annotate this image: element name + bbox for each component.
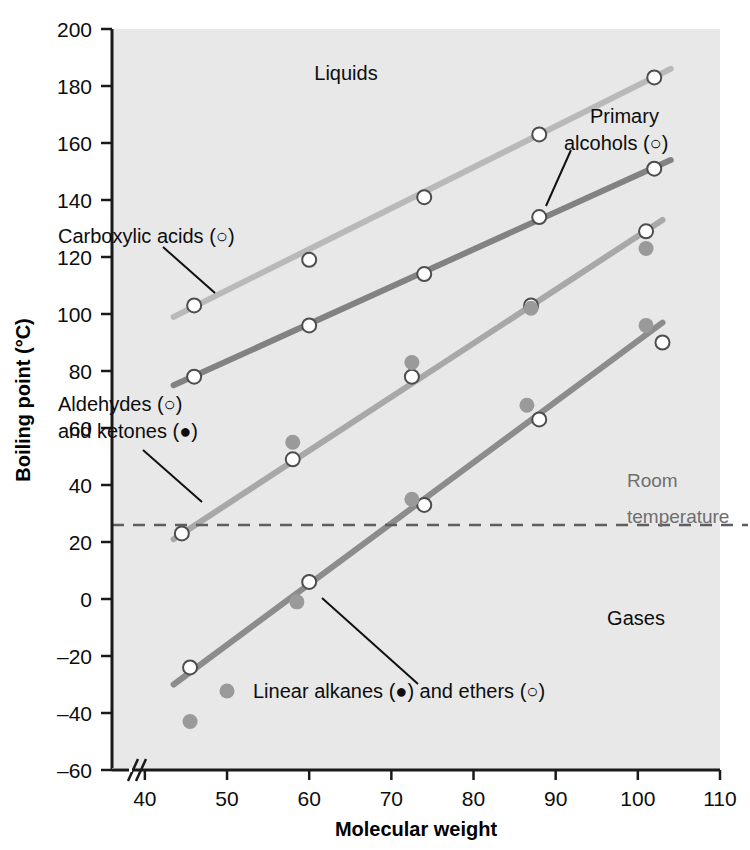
data-point-ketones	[524, 301, 539, 316]
y-axis-title: Boiling point (°C)	[12, 318, 34, 482]
data-point-aldehydes	[175, 526, 189, 540]
boiling-point-vs-molecular-weight-chart: 4050607080901001102001801601401201008060…	[0, 0, 750, 850]
annotation-ketones: and ketones (●)	[58, 420, 198, 442]
data-point-aldehydes	[639, 224, 653, 238]
y-tick-label--60: –60	[57, 759, 92, 782]
y-tick-label--20: –20	[57, 645, 92, 668]
x-tick-label-70: 70	[380, 787, 403, 810]
annotation-carboxylic-acids: Carboxylic acids (○)	[58, 225, 235, 247]
annotation-alkanes-ethers: Linear alkanes (●) and ethers (○)	[253, 680, 545, 702]
data-point-primary-alcohols	[647, 162, 661, 176]
data-point-linear-alkanes	[639, 318, 654, 333]
data-point-ketones	[285, 435, 300, 450]
data-point-linear-alkanes	[289, 594, 304, 609]
data-point-primary-alcohols	[187, 370, 201, 384]
data-point-primary-alcohols	[532, 210, 546, 224]
x-tick-label-100: 100	[620, 787, 655, 810]
annotation-aldehydes: Aldehydes (○)	[58, 393, 182, 415]
y-tick-label-100: 100	[57, 303, 92, 326]
y-tick-label-20: 20	[69, 531, 92, 554]
data-point-linear-alkanes	[183, 714, 198, 729]
data-point-ethers	[655, 336, 669, 350]
annotation-room-temperature-line2: temperature	[627, 506, 729, 527]
data-point-ketones	[639, 241, 654, 256]
data-point-primary-alcohols	[417, 267, 431, 281]
data-point-ketones	[404, 355, 419, 370]
data-point-ethers	[532, 412, 546, 426]
y-tick-label-120: 120	[57, 246, 92, 269]
data-point-carboxylic-acids	[532, 127, 546, 141]
data-point-carboxylic-acids	[302, 253, 316, 267]
data-point-ethers	[183, 660, 197, 674]
x-tick-label-90: 90	[544, 787, 567, 810]
annotation-primary-alcohols-line1: Primary	[590, 105, 659, 127]
y-tick-label-80: 80	[69, 360, 92, 383]
annotation-primary-alcohols-line2: alcohols (○)	[564, 132, 668, 154]
data-point-linear-alkanes	[404, 492, 419, 507]
y-tick-label-0: 0	[80, 588, 92, 611]
data-point-linear-alkanes	[519, 398, 534, 413]
y-tick-label-40: 40	[69, 474, 92, 497]
y-tick-label-180: 180	[57, 75, 92, 98]
x-tick-label-50: 50	[215, 787, 238, 810]
y-tick-label-160: 160	[57, 132, 92, 155]
data-point-ethers	[302, 575, 316, 589]
x-tick-label-110: 110	[703, 787, 736, 810]
data-point-carboxylic-acids	[187, 298, 201, 312]
data-point-aldehydes	[286, 452, 300, 466]
annotation-gases: Gases	[607, 607, 665, 629]
y-tick-label-200: 200	[57, 18, 92, 41]
chart-figure: 4050607080901001102001801601401201008060…	[0, 0, 750, 850]
data-point-carboxylic-acids	[417, 190, 431, 204]
data-point-primary-alcohols	[302, 318, 316, 332]
x-tick-label-40: 40	[133, 787, 156, 810]
data-point-aldehydes	[405, 370, 419, 384]
x-tick-label-80: 80	[462, 787, 485, 810]
x-tick-label-60: 60	[298, 787, 321, 810]
data-point-carboxylic-acids	[647, 70, 661, 84]
annotation-room-temperature-line1: Room	[627, 470, 678, 491]
legend-stray-marker	[220, 684, 235, 699]
annotation-liquids: Liquids	[314, 62, 377, 84]
y-tick-label-140: 140	[57, 189, 92, 212]
x-axis-title: Molecular weight	[335, 818, 498, 840]
y-tick-label--40: –40	[57, 702, 92, 725]
